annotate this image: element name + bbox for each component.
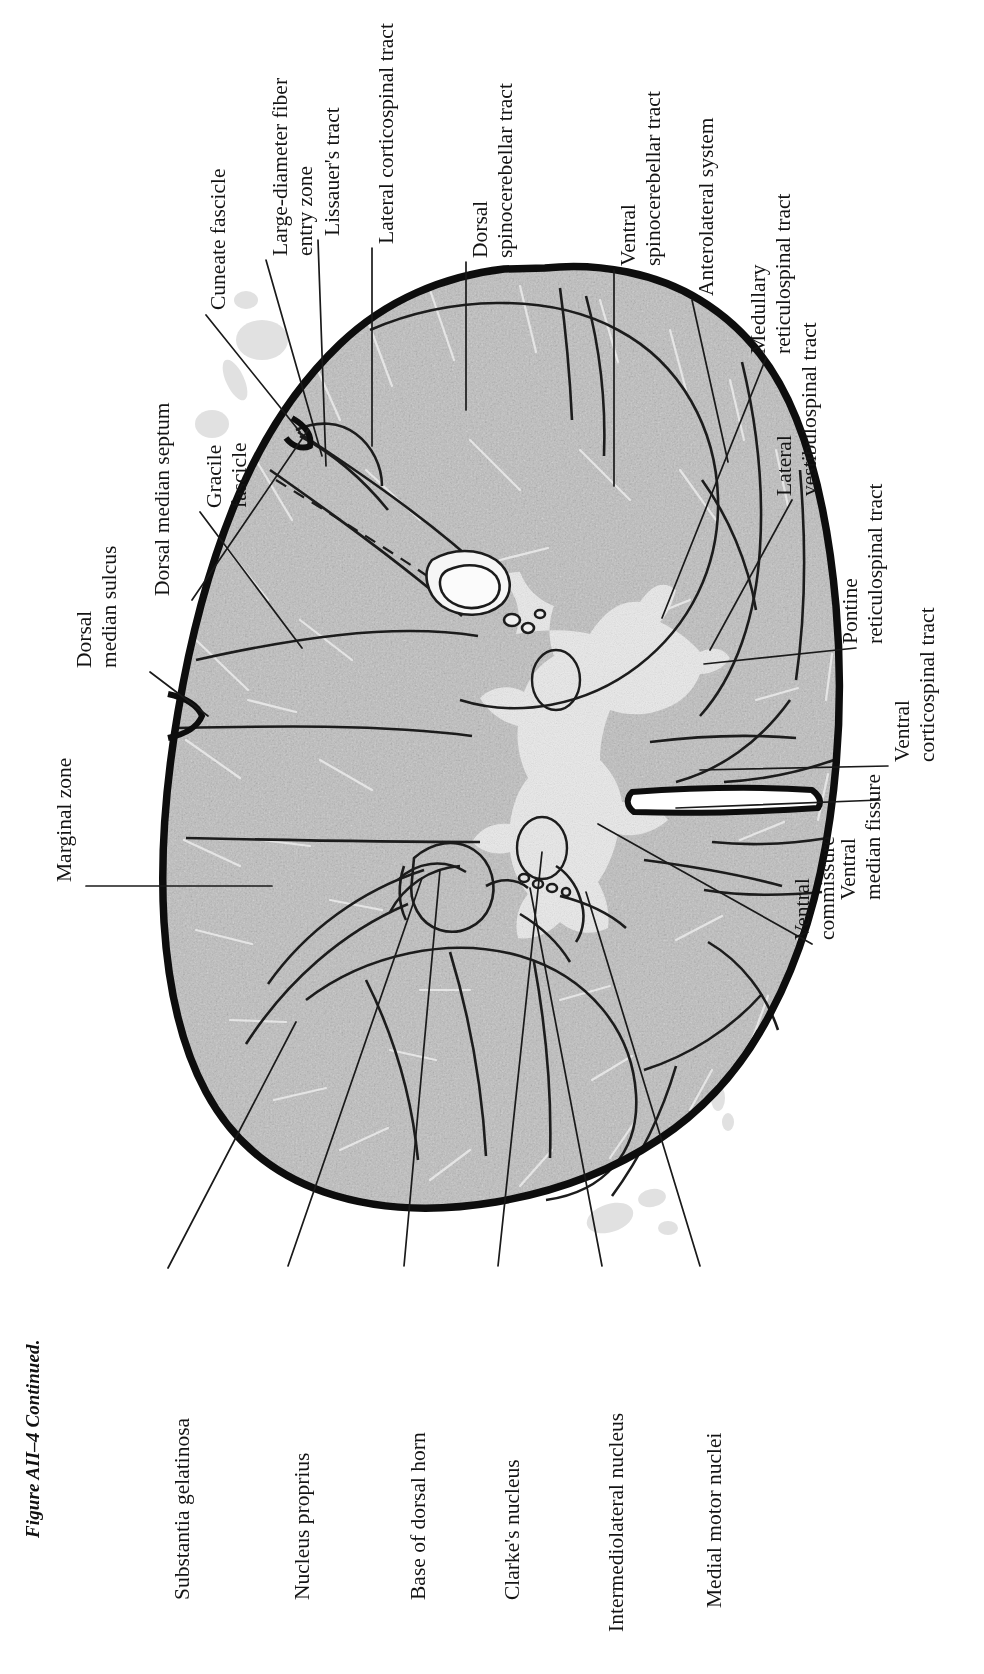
label-pontine-reticulospinal-tract: Pontine reticulospinal tract [838, 483, 889, 644]
label-ventral-corticospinal-tract: Ventral corticospinal tract [890, 607, 941, 762]
figure-plate: Figure AII–4 Continued. Cuneate fascicle… [0, 0, 984, 1674]
label-anterolateral-system: Anterolateral system [694, 117, 719, 296]
label-dorsal-spinocerebellar-tract: Dorsal spinocerebellar tract [468, 83, 519, 258]
label-intermediolateral-nucleus: Intermediolateral nucleus [604, 1413, 629, 1632]
label-medial-motor-nuclei: Medial motor nuclei [702, 1432, 727, 1608]
label-gracile-fascicle: Gracile fascicle [202, 442, 253, 508]
label-clarkes-nucleus: Clarke's nucleus [500, 1459, 525, 1600]
label-lateral-corticospinal-tract: Lateral corticospinal tract [374, 23, 399, 244]
label-lissauers-tract: Lissauer's tract [320, 107, 345, 236]
label-ventral-spinocerebellar-tract: Ventral spinocerebellar tract [616, 91, 667, 266]
label-base-of-dorsal-horn: Base of dorsal horn [406, 1432, 431, 1600]
label-dorsal-median-sulcus: Dorsal median sulcus [72, 546, 123, 668]
label-dorsal-median-septum: Dorsal median septum [150, 403, 175, 596]
label-nucleus-proprius: Nucleus proprius [290, 1453, 315, 1601]
label-cuneate-fascicle: Cuneate fascicle [206, 169, 231, 310]
label-substantia-gelatinosa: Substantia gelatinosa [170, 1418, 195, 1600]
label-ventral-commissure: Ventral commissure [790, 836, 841, 940]
label-marginal-zone: Marginal zone [52, 758, 77, 882]
label-ventral-median-fissure: Ventral median fissure [836, 774, 887, 900]
label-large-diameter-fiber-entry-zone: Large-diameter fiber entry zone [268, 78, 319, 256]
label-lateral-vestibulospinal-tract: Lateral vestibulospinal tract [772, 322, 823, 496]
figure-caption: Figure AII–4 Continued. [22, 1348, 44, 1538]
